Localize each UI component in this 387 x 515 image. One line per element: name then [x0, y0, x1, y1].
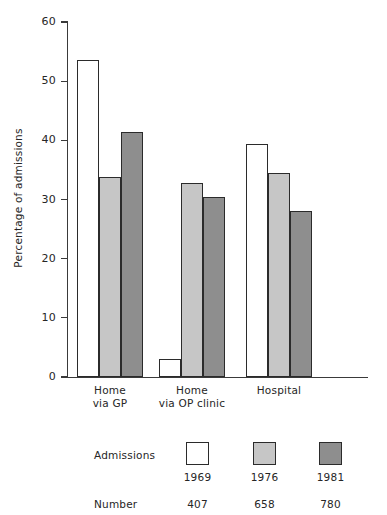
legend-year-1981: 1981 — [301, 471, 361, 483]
chart-legend: AdmissionsNumber196940719766581981780 — [0, 437, 387, 515]
bar-1981-group-2 — [203, 197, 225, 377]
y-axis-tick — [61, 140, 68, 141]
y-axis-title: Percentage of admissions — [12, 98, 24, 298]
bar-1976-group-2 — [181, 183, 203, 377]
y-axis-tick — [61, 317, 68, 318]
bar-1969-group-3 — [246, 144, 268, 377]
legend-swatch-1976 — [253, 442, 276, 465]
bar-1981-group-3 — [290, 211, 312, 377]
y-axis-tick — [61, 81, 68, 82]
y-axis-tick — [61, 376, 68, 377]
legend-swatch-1981 — [319, 442, 342, 465]
x-axis-line — [67, 377, 368, 378]
y-axis-tick-label: 0 — [16, 371, 56, 382]
legend-year-1969: 1969 — [168, 471, 228, 483]
x-axis-category-line: via OP clinic — [132, 397, 252, 410]
x-axis-category-line: Hospital — [219, 384, 339, 397]
legend-number-1981: 780 — [301, 498, 361, 510]
bar-1976-group-1 — [99, 177, 121, 377]
legend-year-1976: 1976 — [235, 471, 295, 483]
y-axis-tick-label: 50 — [16, 75, 56, 86]
bar-chart-figure: 0102030405060 Percentage of admissions H… — [0, 0, 387, 515]
bar-1969-group-2 — [159, 359, 181, 377]
y-axis-tick-label: 60 — [16, 16, 56, 27]
plot-area — [68, 22, 368, 377]
x-axis-category-label: Hospital — [219, 384, 339, 397]
legend-row-label-admissions: Admissions — [94, 449, 155, 461]
y-axis-tick — [61, 21, 68, 22]
y-axis-tick-label: 10 — [16, 312, 56, 323]
legend-swatch-1969 — [186, 442, 209, 465]
legend-number-1976: 658 — [235, 498, 295, 510]
bar-1976-group-3 — [268, 173, 290, 377]
bar-1969-group-1 — [77, 60, 99, 377]
y-axis-tick — [61, 199, 68, 200]
bar-1981-group-1 — [121, 132, 143, 377]
legend-number-1969: 407 — [168, 498, 228, 510]
y-axis-tick — [61, 258, 68, 259]
legend-row-label-number: Number — [94, 498, 137, 510]
